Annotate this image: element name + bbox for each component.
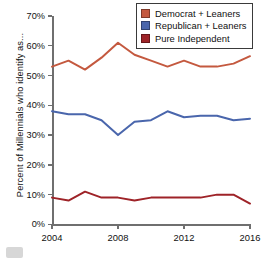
legend-item[interactable]: Pure Independent	[141, 32, 246, 45]
y-tick-label: 20%	[27, 160, 45, 170]
x-tick-label: 2004	[42, 232, 63, 243]
y-tick-label: 40%	[27, 100, 45, 110]
legend-item-label: Democrat + Leaners	[155, 8, 240, 19]
y-tick-label: 10%	[27, 190, 45, 200]
legend-item-label: Republican + Leaners	[155, 20, 246, 31]
legend: Democrat + LeanersRepublican + LeanersPu…	[136, 3, 253, 49]
legend-item[interactable]: Republican + Leaners	[141, 20, 246, 33]
line-chart: Percent of Millennials who identify as..…	[0, 0, 263, 260]
y-tick-label: 60%	[27, 41, 45, 51]
scan-artifact	[6, 247, 23, 258]
legend-item[interactable]: Democrat + Leaners	[141, 7, 246, 20]
y-tick-label: 50%	[27, 71, 45, 81]
legend-item-label: Pure Independent	[155, 33, 230, 44]
x-tick-label: 2016	[240, 232, 261, 243]
x-tick-label: 2008	[108, 232, 129, 243]
y-tick-label: 0%	[32, 219, 45, 229]
x-tick-label: 2012	[174, 232, 195, 243]
legend-swatch-icon	[141, 34, 150, 43]
legend-swatch-icon	[141, 21, 150, 30]
y-tick-label: 30%	[27, 130, 45, 140]
series-line	[52, 192, 250, 204]
legend-swatch-icon	[141, 9, 150, 18]
y-axis-title: Percent of Millennials who identify as..…	[15, 0, 25, 230]
y-tick-label: 70%	[27, 11, 45, 21]
series-line	[52, 111, 250, 135]
